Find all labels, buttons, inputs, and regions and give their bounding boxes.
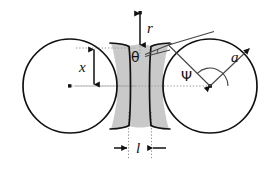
theta-label: θ (131, 49, 140, 65)
figure-root: r x l a Ψ θ (0, 0, 279, 169)
a-label: a (231, 49, 239, 65)
l-label: l (136, 140, 140, 156)
psi-label: Ψ (181, 68, 192, 84)
left-center-dot (68, 84, 71, 87)
r-top-dot (138, 11, 141, 14)
r-label: r (147, 20, 153, 36)
r-dimension: r (138, 11, 153, 45)
x-label: x (78, 59, 86, 75)
sintering-neck-diagram: r x l a Ψ θ (0, 0, 279, 169)
l-dimension: l (114, 140, 166, 156)
